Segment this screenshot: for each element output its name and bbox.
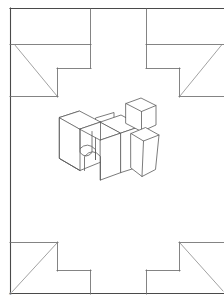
corner-mark: a	[9, 290, 12, 296]
artwork-canvas: a	[0, 0, 224, 301]
notched-corner-top-right	[146, 9, 224, 97]
i-stem-block	[131, 128, 159, 177]
h-right-post-front	[101, 133, 122, 180]
bl-notch-diagonal	[12, 243, 57, 292]
tl-notch-diagonal	[15, 45, 58, 97]
notched-corner-bottom-left	[10, 242, 91, 294]
line-drawing	[0, 0, 224, 301]
notched-corner-top-left	[10, 9, 91, 97]
notched-corner-bottom-right	[146, 242, 224, 294]
block-letter-hi	[60, 98, 160, 180]
br-notch-diagonal	[180, 243, 223, 291]
tr-notch-diagonal	[180, 45, 222, 97]
